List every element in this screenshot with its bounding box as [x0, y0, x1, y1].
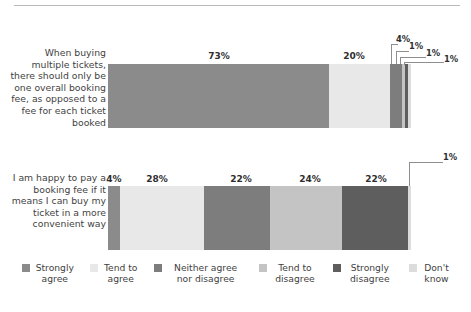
segment-strongly-agree-bar2[interactable]: [108, 186, 120, 250]
legend-swatch-icon: [409, 264, 417, 272]
legend-item-strongly-agree[interactable]: Strongly agree: [22, 262, 76, 285]
callout-leader-tend-to-disagree-bar1-vertical: [396, 51, 397, 64]
callout-leader-strongly-disagree-bar1-horizontal: [400, 57, 426, 58]
legend-item-strongly-disagree[interactable]: Strongly disagree: [333, 262, 395, 285]
segment-tend-to-disagree-bar2[interactable]: [270, 186, 342, 250]
legend-swatch-icon: [154, 264, 162, 272]
callout-label-dont-know-bar1: 1%: [444, 54, 458, 64]
legend-swatch-icon: [90, 264, 98, 272]
segment-dont-know-bar1[interactable]: [408, 64, 411, 128]
callout-leader-neither-bar1-horizontal: [391, 44, 398, 45]
legend-item-neither-agree-nor-disagree[interactable]: Neither agree nor disagree: [154, 262, 245, 285]
callout-leader-neither-bar1-vertical: [391, 44, 392, 64]
callout-leader-dont-know-bar2-horizontal: [409, 162, 443, 163]
bar-row-statement-2: [108, 186, 411, 250]
callout-leader-tend-to-disagree-bar1-horizontal: [396, 51, 409, 52]
value-label-strongly-agree-bar2: 4%: [106, 174, 121, 184]
legend-swatch-icon: [259, 264, 267, 272]
legend-item-tend-to-disagree[interactable]: Tend to disagree: [259, 262, 318, 285]
chart-legend: Strongly agree Tend to agree Neither agr…: [22, 262, 452, 285]
segment-neither-bar2[interactable]: [204, 186, 270, 250]
segment-neither-bar1[interactable]: [390, 64, 402, 128]
segment-strongly-disagree-bar2[interactable]: [342, 186, 408, 250]
callout-leader-dont-know-bar2-vertical: [409, 162, 410, 186]
legend-label: Strongly agree: [34, 262, 76, 285]
category-label-statement-1: When buying multiple tickets, there shou…: [8, 47, 106, 128]
value-label-neither-bar2: 22%: [230, 174, 252, 184]
legend-swatch-icon: [333, 264, 341, 272]
value-label-tend-to-agree-bar2: 28%: [146, 174, 168, 184]
legend-item-dont-know[interactable]: Don't know: [409, 262, 452, 285]
segment-tend-to-agree-bar2[interactable]: [120, 186, 204, 250]
value-label-tend-to-disagree-bar2: 24%: [299, 174, 321, 184]
value-label-strongly-disagree-bar2: 22%: [365, 174, 387, 184]
callout-label-dont-know-bar2: 1%: [443, 152, 457, 162]
bar-row-statement-1: [108, 64, 411, 128]
segment-tend-to-agree-bar1[interactable]: [329, 64, 390, 128]
segment-strongly-agree-bar1[interactable]: [108, 64, 329, 128]
legend-swatch-icon: [22, 264, 30, 272]
value-label-tend-to-agree-bar1: 20%: [343, 51, 365, 61]
legend-item-tend-to-agree[interactable]: Tend to agree: [90, 262, 140, 285]
value-label-strongly-agree-bar1: 73%: [208, 51, 230, 61]
legend-label: Neither agree nor disagree: [166, 262, 245, 285]
stacked-bar-chart: When buying multiple tickets, there shou…: [0, 0, 471, 312]
callout-label-strongly-disagree-bar1: 1%: [426, 48, 440, 58]
category-label-statement-2: I am happy to pay a booking fee if it me…: [8, 172, 106, 230]
legend-label: Tend to disagree: [271, 262, 318, 285]
segment-dont-know-bar2[interactable]: [408, 186, 411, 250]
header-divider: [14, 5, 460, 6]
legend-label: Tend to agree: [102, 262, 140, 285]
legend-label: Strongly disagree: [345, 262, 395, 285]
callout-leader-dont-know-bar1-horizontal: [404, 62, 444, 63]
callout-label-tend-to-disagree-bar1: 1%: [409, 41, 423, 51]
callout-leader-strongly-disagree-bar1-vertical: [400, 57, 401, 64]
legend-label: Don't know: [421, 262, 452, 285]
